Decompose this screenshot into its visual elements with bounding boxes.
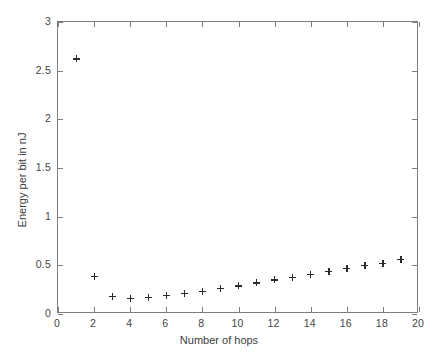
y-axis-tick [58,71,63,72]
x-axis-tick-label: 2 [90,317,96,329]
data-point-marker [145,294,152,301]
y-axis-tick-right [412,265,417,266]
x-axis-tick [419,307,420,312]
y-axis-tick-right [412,314,417,315]
data-point-marker [217,285,224,292]
y-axis-tick-right [412,119,417,120]
x-axis-tick-label: 4 [126,317,132,329]
data-point-marker [253,279,260,286]
x-axis-tick [94,307,95,312]
plot-area [57,21,418,313]
y-axis-tick-label: 0 [45,307,51,319]
data-point-marker [199,288,206,295]
x-axis-tick-top [202,22,203,27]
x-axis-tick-top [311,22,312,27]
x-axis-tick-label: 12 [268,317,280,329]
data-point-marker [289,274,296,281]
y-axis-tick [58,265,63,266]
x-axis-tick [202,307,203,312]
x-axis-tick [239,307,240,312]
x-axis-tick-top [94,22,95,27]
data-point-marker [235,282,242,289]
y-axis-tick-label: 0.5 [36,258,51,270]
y-axis-tick [58,22,63,23]
data-point-marker [163,292,170,299]
x-axis-tick-top [275,22,276,27]
y-axis-label-container: Energy per bit in nJ [14,0,30,359]
y-axis-tick-right [412,217,417,218]
data-point-marker [397,256,404,263]
data-point-marker [325,268,332,275]
x-axis-tick-label: 8 [198,317,204,329]
x-axis-label: Number of hops [0,334,438,346]
x-axis-tick-label: 0 [54,317,60,329]
x-axis-tick-label: 14 [304,317,316,329]
x-axis-tick-label: 10 [231,317,243,329]
y-axis-tick-label: 1.5 [36,161,51,173]
x-axis-tick-label: 6 [162,317,168,329]
y-axis-tick-label: 2.5 [36,64,51,76]
y-axis-tick-label: 1 [45,210,51,222]
x-axis-tick-top [347,22,348,27]
x-axis-tick-top [166,22,167,27]
figure-canvas: Energy per bit in nJ 00.511.522.53 02468… [0,0,438,359]
x-axis-tick [130,307,131,312]
data-point-marker [181,290,188,297]
x-axis-tick-top [130,22,131,27]
x-axis-tick [275,307,276,312]
data-point-marker [379,260,386,267]
x-axis-tick-label: 16 [340,317,352,329]
y-axis-tick-right [412,71,417,72]
x-axis-tick-top [239,22,240,27]
x-axis-tick-label: 20 [412,317,424,329]
data-point-marker [109,293,116,300]
y-axis-tick-right [412,168,417,169]
y-axis-tick [58,119,63,120]
x-axis-tick-label: 18 [376,317,388,329]
data-point-marker [307,271,314,278]
x-axis-tick [166,307,167,312]
x-axis-tick [383,307,384,312]
y-axis-tick [58,217,63,218]
data-point-marker [73,55,80,62]
x-axis-tick [58,307,59,312]
y-axis-tick-label: 2 [45,112,51,124]
data-point-marker [343,265,350,272]
y-axis-tick [58,168,63,169]
data-point-marker [361,262,368,269]
y-axis-tick-right [412,22,417,23]
y-axis-tick [58,314,63,315]
y-axis-label: Energy per bit in nJ [16,132,28,227]
data-point-marker [271,276,278,283]
x-axis-tick-top [383,22,384,27]
x-axis-tick [347,307,348,312]
data-point-marker [127,295,134,302]
x-axis-tick [311,307,312,312]
y-axis-tick-label: 3 [45,15,51,27]
x-axis-tick-top [419,22,420,27]
data-point-marker [91,273,98,280]
